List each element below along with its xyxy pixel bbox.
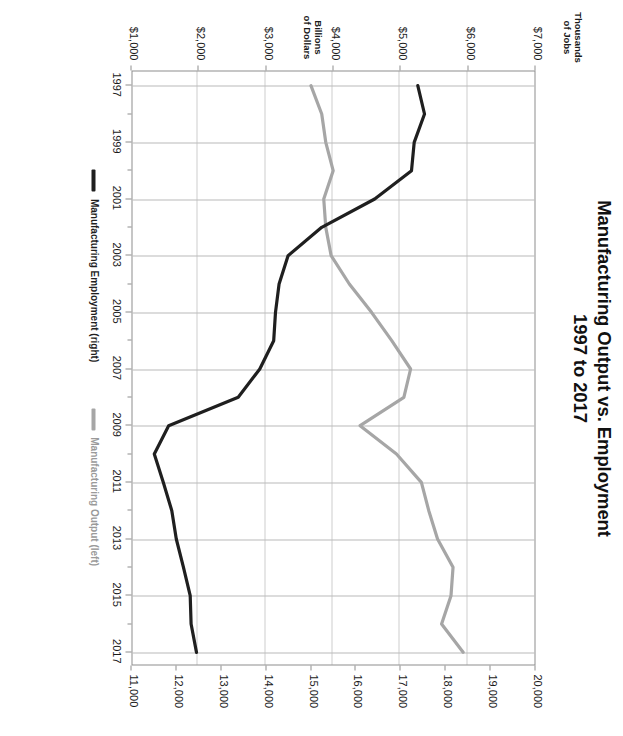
x-axis-tick-mark xyxy=(127,113,131,114)
left-axis-caption: Billions of Dollars xyxy=(300,6,323,68)
left-axis-tick-label: $5,000 xyxy=(396,0,408,60)
x-axis-tick-label: 2001 xyxy=(110,181,122,215)
x-axis-tick-label: 2007 xyxy=(110,351,122,385)
x-axis-tick-label: 1999 xyxy=(110,124,122,158)
right-axis-tick-mark xyxy=(265,665,266,670)
chart-title-line-1: Manufacturing Output vs. Employment xyxy=(591,0,615,736)
legend-swatch-icon xyxy=(92,408,96,430)
x-axis-tick-mark xyxy=(127,453,131,454)
x-axis-tick-mark xyxy=(127,396,131,397)
right-axis-tick-label: 17,000 xyxy=(396,674,408,708)
right-axis-tick-mark xyxy=(534,665,535,670)
right-axis-tick-label: 11,000 xyxy=(127,674,139,707)
left-axis-tick-label: $4,000 xyxy=(329,0,341,60)
right-axis-tick-mark xyxy=(444,665,445,670)
left-axis-caption-line-1: Billions xyxy=(312,6,323,68)
legend-item[interactable]: Manufacturing Employment (right) xyxy=(88,169,99,361)
right-axis-caption-line-2: of Jobs xyxy=(560,6,571,68)
chart-legend: Manufacturing Employment (right)Manufact… xyxy=(88,70,99,665)
legend-label: Manufacturing Output (left) xyxy=(88,437,99,566)
right-axis-caption-line-1: Thousands xyxy=(572,6,583,68)
left-axis-tick-mark xyxy=(534,65,535,70)
x-axis-tick-mark xyxy=(125,538,131,539)
x-axis-tick-mark xyxy=(125,141,131,142)
chart-title: Manufacturing Output vs. Employment 1997… xyxy=(566,0,615,736)
left-axis-caption-line-2: of Dollars xyxy=(300,6,311,68)
left-axis-tick-label: $2,000 xyxy=(194,0,206,60)
x-axis-tick-label: 2003 xyxy=(110,237,122,271)
x-axis-tick-label: 2011 xyxy=(110,464,122,498)
right-axis-tick-mark xyxy=(220,665,221,670)
x-axis-tick-mark xyxy=(125,651,131,652)
right-axis-tick-label: 15,000 xyxy=(307,674,319,708)
x-axis-tick-mark xyxy=(125,368,131,369)
left-axis-tick-mark xyxy=(265,65,266,70)
x-axis-tick-mark xyxy=(127,509,131,510)
right-axis-tick-mark xyxy=(130,665,131,670)
x-axis-tick-mark xyxy=(125,481,131,482)
x-axis-tick-mark xyxy=(127,226,131,227)
x-axis-tick-label: 2017 xyxy=(110,634,122,668)
legend-item[interactable]: Manufacturing Output (left) xyxy=(88,408,99,566)
plot-area xyxy=(131,70,535,665)
x-axis-tick-mark xyxy=(125,424,131,425)
x-axis-tick-label: 2009 xyxy=(110,407,122,441)
right-axis-caption: Thousands of Jobs xyxy=(560,6,583,68)
x-axis-tick-mark xyxy=(127,566,131,567)
right-axis-tick-label: 13,000 xyxy=(217,674,229,708)
left-axis-tick-mark xyxy=(197,65,198,70)
right-axis-tick-mark xyxy=(175,665,176,670)
legend-label: Manufacturing Employment (right) xyxy=(88,198,99,361)
x-axis-tick-label: 2013 xyxy=(110,521,122,555)
x-axis-tick-mark xyxy=(125,311,131,312)
left-axis-tick-mark xyxy=(467,65,468,70)
right-axis-tick-mark xyxy=(399,665,400,670)
chart-figure: Manufacturing Output vs. Employment 1997… xyxy=(0,0,623,736)
left-axis-tick-mark xyxy=(399,65,400,70)
right-axis-tick-label: 12,000 xyxy=(172,674,184,708)
right-axis-tick-label: 19,000 xyxy=(486,674,498,708)
series-line xyxy=(310,85,462,652)
chart-title-line-2: 1997 to 2017 xyxy=(566,0,590,736)
x-axis-tick-mark xyxy=(125,254,131,255)
left-axis-tick-label: $7,000 xyxy=(531,0,543,60)
left-axis-tick-label: $3,000 xyxy=(262,0,274,60)
series-lines xyxy=(130,71,534,666)
left-axis-tick-label: $1,000 xyxy=(127,0,139,60)
series-line xyxy=(154,85,424,652)
x-axis-tick-mark xyxy=(127,169,131,170)
right-axis-tick-mark xyxy=(354,665,355,670)
right-axis-tick-label: 20,000 xyxy=(531,674,543,708)
x-axis-tick-mark xyxy=(127,623,131,624)
x-axis-tick-mark xyxy=(127,339,131,340)
left-axis-tick-mark xyxy=(332,65,333,70)
legend-swatch-icon xyxy=(92,169,96,191)
left-axis-tick-label: $6,000 xyxy=(464,0,476,60)
x-axis-tick-mark xyxy=(125,198,131,199)
x-axis-tick-label: 2015 xyxy=(110,577,122,611)
left-axis-tick-mark xyxy=(130,65,131,70)
x-axis-tick-label: 1997 xyxy=(110,67,122,101)
right-axis-tick-label: 14,000 xyxy=(262,674,274,708)
x-axis-tick-mark xyxy=(125,594,131,595)
right-axis-tick-mark xyxy=(310,665,311,670)
x-axis-tick-mark xyxy=(125,84,131,85)
x-axis-tick-mark xyxy=(127,283,131,284)
right-axis-tick-label: 16,000 xyxy=(351,674,363,708)
right-axis-tick-mark xyxy=(489,665,490,670)
chart-page: Manufacturing Output vs. Employment 1997… xyxy=(0,0,623,736)
right-axis-tick-label: 18,000 xyxy=(441,674,453,708)
x-axis-tick-label: 2005 xyxy=(110,294,122,328)
